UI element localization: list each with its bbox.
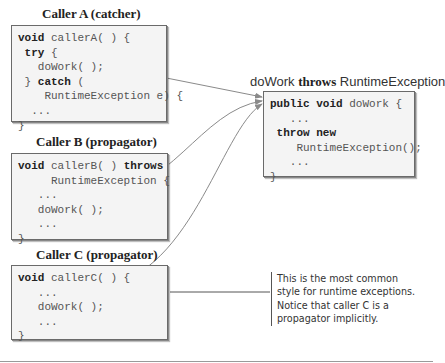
code-line: ... (270, 112, 408, 127)
code-text: callerC( ) { (44, 272, 130, 284)
code-line: ... (18, 315, 161, 330)
caller-b-code: void callerB( ) throws RuntimeException … (18, 159, 161, 247)
code-keyword: public void (270, 98, 343, 110)
code-line: doWork( ); (18, 300, 161, 315)
code-line: } (18, 119, 160, 134)
bottom-divider (0, 361, 433, 362)
caller-a-code-box: void callerA( ) { try { doWork( ); } cat… (11, 25, 167, 122)
code-line: ... (18, 286, 161, 301)
code-text: } (270, 171, 277, 183)
code-text: RuntimeException(); (270, 142, 422, 154)
code-text: doWork( ); (18, 61, 104, 73)
code-line: ... (270, 155, 408, 170)
code-line: } catch ( (18, 75, 160, 90)
code-text: } (18, 120, 25, 132)
dowork-code: public void doWork { ... throw new Runti… (270, 97, 408, 185)
dowork-title: doWork throws RuntimeException (250, 74, 445, 90)
code-text: callerB( ) (44, 160, 123, 172)
code-text: callerA( ) { (44, 32, 130, 44)
code-line: throw new (270, 126, 408, 141)
dowork-code-box: public void doWork { ... throw new Runti… (263, 91, 415, 177)
code-line: ... (18, 104, 160, 119)
caller-a-caption: Caller A (catcher) (42, 6, 141, 22)
code-keyword: throw new (270, 127, 336, 139)
dowork-title-name: doWork (250, 74, 298, 89)
note-line: Notice that caller C is a (277, 299, 437, 312)
code-line: } (18, 232, 161, 247)
code-text: ... (270, 156, 310, 168)
code-text: RuntimeException { (18, 175, 170, 187)
caller-b-caption: Caller B (propagator) (36, 134, 157, 150)
code-text: ... (18, 316, 58, 328)
code-text: doWork( ); (18, 204, 104, 216)
code-line: RuntimeException(); (270, 141, 408, 156)
caller-c-caption: Caller C (propagator) (36, 247, 158, 263)
code-line: void callerB( ) throws (18, 159, 161, 174)
code-text: doWork( ); (18, 301, 104, 313)
code-text: ... (270, 113, 310, 125)
code-text: ... (18, 105, 51, 117)
annotation-note: This is the most common style for runtim… (271, 272, 437, 326)
code-line: RuntimeException { (18, 174, 161, 189)
code-text: doWork { (343, 98, 402, 110)
code-keyword: catch (38, 76, 71, 88)
code-line: void callerC( ) { (18, 271, 161, 286)
code-text: ... (18, 218, 58, 230)
note-line: This is the most common (277, 272, 437, 285)
note-line: style for runtime exceptions. (277, 285, 437, 298)
code-keyword: void (18, 32, 44, 44)
code-line: ... (18, 217, 161, 232)
code-line: void callerA( ) { (18, 31, 160, 46)
code-keyword: void (18, 160, 44, 172)
dowork-title-exception: RuntimeException (336, 74, 445, 89)
code-keyword: throws (124, 160, 164, 172)
code-line: doWork( ); (18, 203, 161, 218)
code-line: RuntimeException e) { (18, 89, 160, 104)
code-text: { (44, 47, 57, 59)
code-text: ( (71, 76, 84, 88)
code-line: doWork( ); (18, 60, 160, 75)
code-text: RuntimeException e) { (18, 90, 183, 102)
caller-c-code-box: void callerC( ) { ... doWork( ); ...} (11, 265, 168, 340)
code-text: ... (18, 287, 58, 299)
code-keyword: void (18, 272, 44, 284)
code-line: try { (18, 46, 160, 61)
code-text: } (18, 330, 25, 342)
code-text: } (18, 76, 38, 88)
code-line: } (18, 329, 161, 344)
caller-b-code-box: void callerB( ) throws RuntimeException … (11, 153, 168, 240)
code-line: public void doWork { (270, 97, 408, 112)
code-line: ... (18, 188, 161, 203)
caller-c-code: void callerC( ) { ... doWork( ); ...} (18, 271, 161, 344)
code-keyword: try (18, 47, 44, 59)
code-text: ... (18, 189, 58, 201)
note-line: propagator implicitly. (277, 312, 437, 325)
caller-a-code: void callerA( ) { try { doWork( ); } cat… (18, 31, 160, 133)
code-text: } (18, 233, 25, 245)
code-line: } (270, 170, 408, 185)
dowork-title-keyword: throws (298, 74, 336, 89)
